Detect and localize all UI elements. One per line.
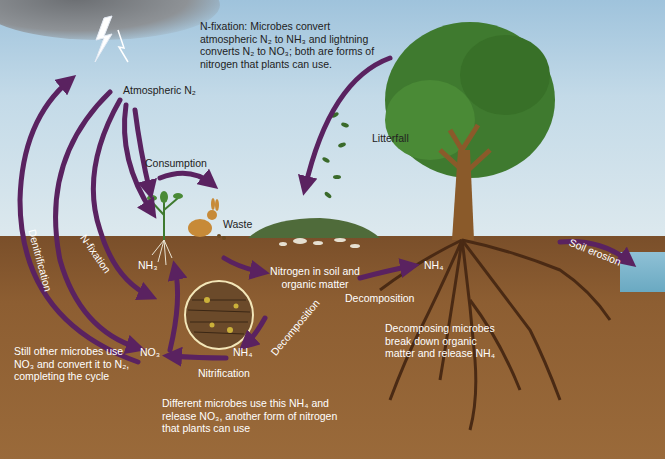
nitrification-arrow (170, 356, 226, 358)
decomposition-note: Decomposing microbes break down organic … (385, 322, 505, 360)
nitrification-note: Different microbes use this NH₄ and rele… (162, 397, 342, 435)
tree-icon (380, 22, 610, 430)
denitrification-note: Still other microbes use NO₃ and convert… (14, 345, 132, 383)
nh3-plant-label: NH₃ (138, 259, 157, 272)
microbe-circle-icon (185, 281, 253, 349)
n-fixation-note: N-fixation: Microbes convert atmospheric… (200, 20, 390, 70)
waste-label: Waste (223, 218, 252, 231)
soil-nitrogen-label: Nitrogen in soil and organic matter (255, 265, 375, 290)
no3-label: NO₃ (140, 346, 160, 359)
nh4-center-label: NH₄ (233, 346, 252, 359)
no3-uptake-arrow (170, 268, 178, 350)
nitrogen-cycle-diagram: N-fixation: Microbes convert atmospheric… (0, 0, 665, 459)
nitrification-label: Nitrification (198, 367, 250, 380)
consumption-arrow (160, 173, 212, 184)
plant-icon (147, 191, 183, 265)
rabbit-icon (188, 198, 226, 240)
litterfall-arrow (305, 58, 390, 188)
denitrification-arrow (20, 80, 138, 362)
organic-debris (279, 238, 360, 248)
organic-matter-mound (248, 218, 380, 238)
lightning-icon (95, 16, 128, 62)
decomposition-right-label: Decomposition (345, 292, 414, 305)
nh4-right-label: NH₄ (424, 259, 443, 272)
litterfall-label: Litterfall (372, 132, 409, 145)
atmospheric-n2-label: Atmospheric N₂ (123, 84, 196, 97)
consumption-label: Consumption (145, 157, 207, 170)
